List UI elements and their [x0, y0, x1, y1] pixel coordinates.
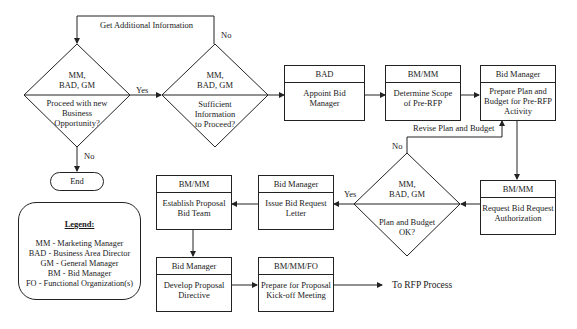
- task-line: Determine Scope: [386, 88, 460, 98]
- process-establish-bid-team: BM/MM Establish Proposal Bid Team: [156, 175, 232, 230]
- process-request-authorization: BM/MM Request Bid Request Authorization: [480, 180, 556, 235]
- d2-no-label: No: [221, 30, 231, 40]
- d2-q2: Information: [175, 109, 255, 119]
- process-task: Request Bid Request Authorization: [481, 198, 555, 223]
- d1-yes-label: Yes: [136, 85, 148, 95]
- process-task: Prepare Plan and Budget for Pre-RFP Acti…: [481, 83, 555, 116]
- d3-question: Plan and Budget OK?: [367, 217, 447, 237]
- revise-label: Revise Plan and Budget: [413, 123, 494, 133]
- process-prepare-kickoff: BM/MM/FO Prepare for Proposal Kick-off M…: [258, 257, 334, 312]
- task-line: of Pre-RFP: [386, 98, 460, 108]
- process-owner: BAD: [285, 66, 364, 83]
- process-owner: BM/MM: [386, 66, 460, 83]
- d3-q2: OK?: [367, 227, 447, 237]
- process-owner: Bid Manager: [481, 66, 555, 83]
- process-issue-bid-request: Bid Manager Issue Bid Request Letter: [258, 175, 334, 230]
- task-line: Manager: [285, 98, 364, 108]
- task-line: Establish Proposal: [157, 198, 231, 208]
- d2-question: Sufficient Information to Proceed?: [175, 99, 255, 129]
- task-line: Letter: [259, 208, 333, 218]
- process-task: Determine Scope of Pre-RFP: [386, 83, 460, 108]
- process-develop-directive: Bid Manager Develop Proposal Directive: [156, 257, 232, 312]
- process-task: Issue Bid Request Letter: [259, 193, 333, 218]
- legend-title: Legend:: [19, 219, 140, 229]
- legend-item: BAD - Business Area Director: [19, 249, 140, 259]
- d2-q1: Sufficient: [175, 99, 255, 109]
- d1-q1: Proceed with new: [37, 98, 117, 108]
- process-task: Establish Proposal Bid Team: [157, 193, 231, 218]
- task-line: Issue Bid Request: [259, 198, 333, 208]
- d2-owner: MM, BAD, GM: [185, 70, 245, 90]
- d3-owner: MM, BAD, GM: [377, 179, 437, 199]
- legend-box: Legend: MM - Marketing Manager BAD - Bus…: [18, 202, 141, 300]
- d1-owner: MM, BAD, GM: [47, 70, 107, 90]
- process-owner: Bid Manager: [259, 176, 333, 193]
- d3-yes-label: Yes: [344, 189, 356, 199]
- process-determine-scope: BM/MM Determine Scope of Pre-RFP: [385, 65, 461, 121]
- task-line: Prepare Plan and: [481, 86, 555, 96]
- d1-question: Proceed with new Business Opportunity?: [37, 98, 117, 128]
- legend-item: BM - Bid Manager: [19, 269, 140, 279]
- process-owner: BM/MM: [157, 176, 231, 193]
- d3-owner-line1: MM,: [377, 179, 437, 189]
- d1-no-label: No: [84, 151, 94, 161]
- d1-owner-line2: BAD, GM: [47, 80, 107, 90]
- task-line: Request Bid Request: [481, 203, 555, 213]
- legend-item: FO - Functional Organization(s): [19, 279, 140, 289]
- process-owner: BM/MM/FO: [259, 258, 333, 275]
- d1-q3: Opportunity?: [37, 118, 117, 128]
- d2-q3: to Proceed?: [175, 119, 255, 129]
- process-task: Prepare for Proposal Kick-off Meeting: [259, 275, 333, 300]
- d3-owner-line2: BAD, GM: [377, 189, 437, 199]
- process-prepare-plan-budget: Bid Manager Prepare Plan and Budget for …: [480, 65, 556, 121]
- task-line: Activity: [481, 106, 555, 116]
- d2-owner-line2: BAD, GM: [185, 80, 245, 90]
- task-line: Budget for Pre-RFP: [481, 96, 555, 106]
- process-task: Develop Proposal Directive: [157, 275, 231, 300]
- process-owner: BM/MM: [481, 181, 555, 198]
- d3-no-label: No: [392, 141, 402, 151]
- task-line: Bid Team: [157, 208, 231, 218]
- process-appoint-bid-manager: BAD Appoint Bid Manager: [284, 65, 365, 121]
- task-line: Prepare for Proposal: [259, 280, 333, 290]
- task-line: Directive: [157, 290, 231, 300]
- task-line: Appoint Bid: [285, 88, 364, 98]
- legend-item: MM - Marketing Manager: [19, 239, 140, 249]
- task-line: Kick-off Meeting: [259, 290, 333, 300]
- d1-owner-line1: MM,: [47, 70, 107, 80]
- to-rfp-label: To RFP Process: [392, 280, 452, 290]
- legend-item: GM - General Manager: [19, 259, 140, 269]
- legend-items: MM - Marketing Manager BAD - Business Ar…: [19, 239, 140, 289]
- d3-q1: Plan and Budget: [367, 217, 447, 227]
- get-additional-info-label: Get Additional Information: [100, 20, 190, 30]
- task-line: Develop Proposal: [157, 280, 231, 290]
- process-owner: Bid Manager: [157, 258, 231, 275]
- process-task: Appoint Bid Manager: [285, 83, 364, 108]
- task-line: Authorization: [481, 213, 555, 223]
- end-terminal: End: [50, 172, 104, 191]
- d2-owner-line1: MM,: [185, 70, 245, 80]
- d1-q2: Business: [37, 108, 117, 118]
